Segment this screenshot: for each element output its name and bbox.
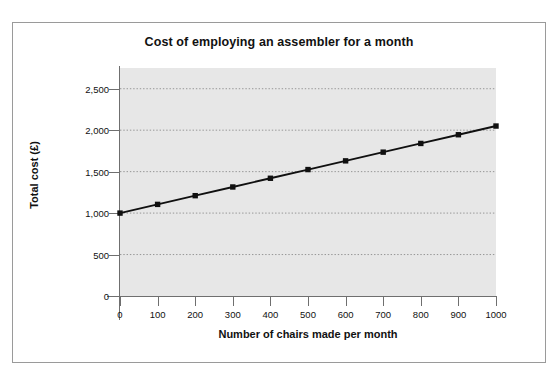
x-tick-mark bbox=[195, 297, 196, 306]
data-point-marker bbox=[493, 123, 498, 128]
chart-figure-frame: Cost of employing an assembler for a mon… bbox=[12, 22, 546, 363]
y-tick-mark bbox=[109, 172, 120, 173]
x-tick-mark bbox=[458, 297, 459, 306]
x-tick-mark bbox=[270, 297, 271, 306]
chart-title: Cost of employing an assembler for a mon… bbox=[13, 35, 545, 49]
data-point-marker bbox=[381, 149, 386, 154]
data-point-marker bbox=[305, 167, 310, 172]
y-tick-label: 0 bbox=[57, 291, 109, 302]
x-tick-mark bbox=[496, 297, 497, 306]
data-point-marker bbox=[268, 176, 273, 181]
series-plot bbox=[120, 68, 496, 296]
data-point-marker bbox=[193, 193, 198, 198]
x-tick-mark bbox=[308, 297, 309, 306]
x-tick-mark bbox=[421, 297, 422, 306]
y-tick-mark bbox=[109, 130, 120, 131]
data-point-marker bbox=[117, 210, 122, 215]
data-point-marker bbox=[155, 202, 160, 207]
plot-area bbox=[120, 68, 496, 296]
data-point-marker bbox=[418, 141, 423, 146]
x-tick-mark bbox=[346, 297, 347, 306]
y-tick-mark bbox=[109, 89, 120, 90]
x-axis-title: Number of chairs made per month bbox=[120, 328, 496, 340]
x-tick-label: 1000 bbox=[474, 309, 518, 320]
y-tick-mark bbox=[109, 255, 120, 256]
x-tick-mark bbox=[233, 297, 234, 306]
y-tick-label: 500 bbox=[57, 249, 109, 260]
data-point-marker bbox=[343, 158, 348, 163]
x-tick-mark bbox=[120, 297, 121, 306]
x-tick-mark bbox=[158, 297, 159, 306]
x-tick-mark bbox=[383, 297, 384, 306]
y-tick-mark bbox=[109, 296, 120, 297]
y-axis-title: Total cost (£) bbox=[28, 105, 40, 245]
y-tick-label: 2,000 bbox=[57, 125, 109, 136]
y-tick-label: 2,500 bbox=[57, 83, 109, 94]
x-axis-line bbox=[107, 296, 497, 297]
data-point-marker bbox=[230, 184, 235, 189]
y-tick-label: 1,000 bbox=[57, 208, 109, 219]
y-tick-label: 1,500 bbox=[57, 166, 109, 177]
data-point-marker bbox=[456, 132, 461, 137]
